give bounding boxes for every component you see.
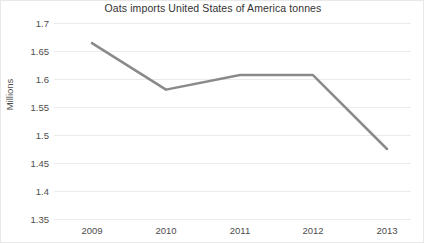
chart-figure: Oats imports United States of America to… <box>0 0 424 243</box>
data-series-line <box>92 43 387 149</box>
series-layer <box>1 1 424 243</box>
